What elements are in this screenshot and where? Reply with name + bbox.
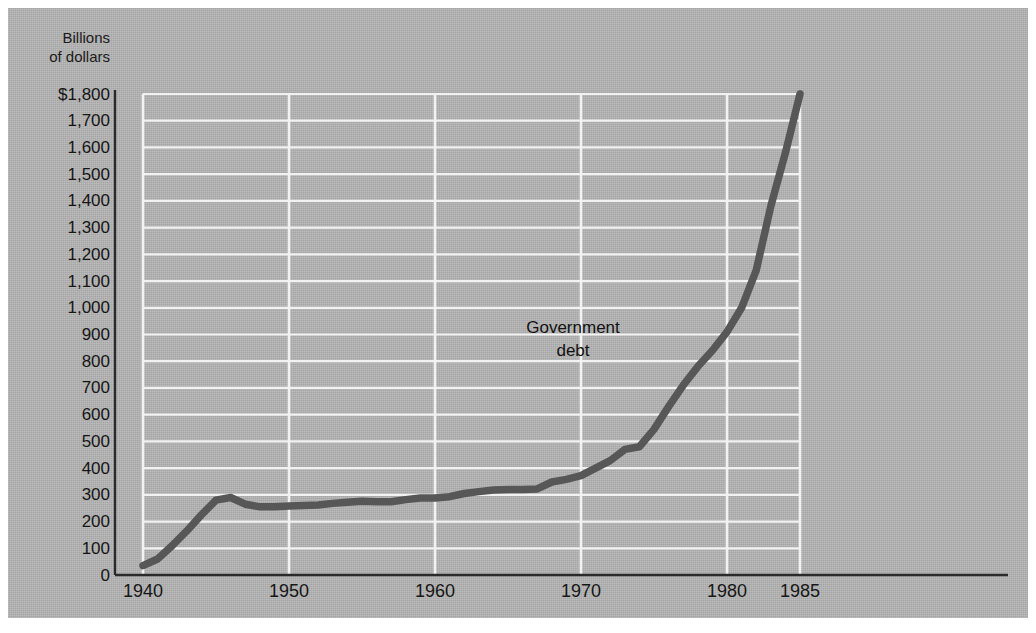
figure-canvas: Billions of dollars $1,8001,7001,6001,50… — [0, 0, 1036, 633]
series-annotation-line-2: debt — [500, 339, 646, 362]
horizontal-gridlines — [143, 94, 800, 548]
series-annotation-line-1: Government — [500, 316, 646, 339]
series-annotation-government-debt: Government debt — [500, 316, 646, 362]
